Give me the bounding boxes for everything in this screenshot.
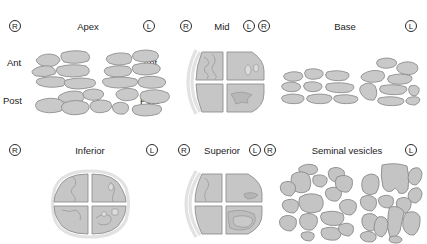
mid-left-marker: L: [243, 20, 255, 32]
inferior-title: Inferior: [75, 146, 105, 156]
apex-fragment-cluster: [30, 48, 175, 118]
apex-right-marker: R: [9, 20, 21, 32]
superior-title: Superior: [204, 146, 240, 156]
seminal-vesicles-left-marker: L: [405, 144, 417, 156]
seminal-vesicles-right-marker: R: [264, 144, 276, 156]
mid-title: Mid: [214, 22, 229, 32]
mid-quadrant-section: [190, 46, 270, 118]
base-left-marker: L: [405, 20, 417, 32]
base-right-marker: R: [258, 20, 270, 32]
mid-right-marker: R: [180, 20, 192, 32]
apex-left-marker: L: [143, 20, 155, 32]
superior-left-marker: L: [249, 144, 261, 156]
apex-title: Apex: [77, 22, 99, 32]
base-title: Base: [334, 22, 356, 32]
seminal-vesicles-title: Seminal vesicles: [312, 146, 383, 156]
superior-right-marker: R: [178, 144, 190, 156]
base-fragment-cluster: [275, 56, 420, 112]
seminal-vesicles-fragment-cluster: [280, 163, 422, 243]
apex-post-left-label: Post: [3, 95, 22, 106]
inferior-right-marker: R: [9, 144, 21, 156]
apex-ant-left-label: Ant: [7, 57, 21, 68]
inferior-quadrant-section: [50, 168, 136, 240]
prostate-section-map-figure: R Apex L Ant Ant Post Post: [0, 0, 427, 244]
superior-quadrant-section: [186, 168, 268, 240]
inferior-left-marker: L: [146, 144, 158, 156]
